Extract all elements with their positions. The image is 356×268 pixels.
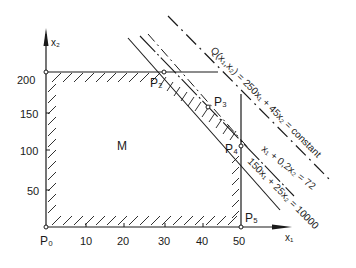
region-label: M (117, 139, 127, 153)
region-boundary (46, 72, 241, 227)
y-tick-100: 100 (20, 145, 38, 157)
vertex-p4 (239, 144, 243, 148)
vertex-x2-200 (44, 70, 48, 74)
hatch-left (48, 84, 56, 213)
point-label-p5: P₅ (245, 211, 258, 225)
x1-axis-arrow-icon (272, 225, 292, 230)
x1-axis-label: x₁ (285, 232, 294, 243)
constraint-150x1-25x2-line (128, 38, 280, 210)
vertex-p5 (239, 225, 243, 229)
point-label-p0: P₀ (40, 234, 53, 248)
x2-axis-label: x₂ (51, 37, 60, 48)
x-tick-40: 40 (196, 235, 208, 247)
axes (46, 34, 284, 227)
vertices (44, 70, 243, 229)
x-tick-10: 10 (80, 235, 92, 247)
y-tick-150: 150 (20, 108, 38, 120)
hatch-top (52, 73, 160, 82)
x-tick-20: 20 (117, 235, 129, 247)
x-tick-30: 30 (158, 235, 170, 247)
vertex-p2 (162, 70, 166, 74)
x-tick-50: 50 (233, 235, 245, 247)
hatch-right (232, 156, 239, 218)
x2-axis-arrow-icon (44, 28, 49, 46)
vertex-p3 (206, 105, 210, 109)
objective-line (168, 16, 330, 180)
point-label-p4: P₄ (225, 142, 238, 156)
lp-diagram: x₂ x₁ 10 20 30 40 50 200 150 100 50 M P₀… (0, 0, 356, 268)
vertex-p0 (44, 225, 48, 229)
y-tick-200: 200 (17, 74, 35, 86)
y-tick-50: 50 (27, 185, 39, 197)
point-label-p3: P₃ (214, 95, 227, 109)
point-label-p2: P₂ (150, 76, 163, 90)
hatch-bottom (52, 216, 237, 225)
